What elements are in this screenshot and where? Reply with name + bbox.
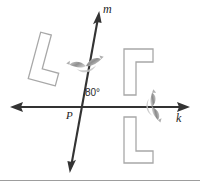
l-shape-upper-right (124, 49, 153, 95)
l-shape-lower-right (124, 117, 153, 163)
line-k (10, 102, 190, 112)
l-shape-upper-left (28, 32, 67, 86)
angle-measure-label: 80° (85, 88, 100, 98)
geometry-figure: m k P 80° (0, 0, 200, 188)
reflection-marker-m (66, 55, 106, 76)
flip-arrow-left-wing (148, 92, 157, 107)
l-shape-outline (124, 49, 153, 95)
l-shape-outline (124, 117, 153, 163)
line-m-label: m (103, 3, 112, 15)
flip-arrow-right-wing (151, 106, 160, 121)
flip-arrow-right-wing (85, 57, 102, 66)
point-p-label: P (66, 110, 73, 121)
l-shape-outline (28, 32, 67, 86)
flip-arrow-left-wing (69, 60, 86, 69)
line-k-label: k (176, 112, 181, 124)
